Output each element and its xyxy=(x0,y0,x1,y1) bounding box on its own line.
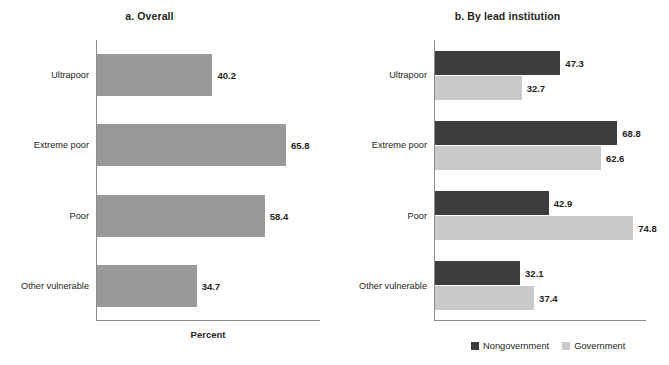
category-group: Extreme poor65.8 xyxy=(97,124,321,166)
bar-value-label: 58.4 xyxy=(270,210,289,221)
category-axis-label: Extreme poor xyxy=(372,140,427,150)
bar-value-label: 62.6 xyxy=(606,152,625,163)
bar[interactable]: 32.7 xyxy=(435,76,522,100)
panel-a-x-axis-line xyxy=(96,320,320,321)
bar-row: 58.4 xyxy=(97,195,321,237)
bar-value-label: 32.1 xyxy=(525,268,544,279)
bar-row: 32.1 xyxy=(435,261,647,285)
category-group: Poor58.4 xyxy=(97,195,321,237)
bar-row: 37.4 xyxy=(435,286,647,310)
bar-value-label: 32.7 xyxy=(527,82,546,93)
category-axis-label: Ultrapoor xyxy=(389,70,427,80)
bar[interactable]: 32.1 xyxy=(435,261,520,285)
category-axis-label: Other vulnerable xyxy=(359,281,427,291)
bar-row: 74.8 xyxy=(435,216,647,240)
bar[interactable]: 40.2 xyxy=(97,54,212,96)
panel-a-x-axis-title: Percent xyxy=(148,329,268,340)
bar-value-label: 34.7 xyxy=(202,280,221,291)
bar[interactable]: 62.6 xyxy=(435,146,601,170)
legend-item-nongovernment[interactable]: Nongovernment xyxy=(471,341,549,351)
bar-row: 47.3 xyxy=(435,51,647,75)
legend: NongovernmentGovernment xyxy=(471,341,625,351)
bar[interactable]: 74.8 xyxy=(435,216,633,240)
bar-row: 34.7 xyxy=(97,265,321,307)
legend-swatch-icon xyxy=(471,342,479,350)
category-group: Other vulnerable32.137.4 xyxy=(435,261,647,310)
panel-b-x-axis-line xyxy=(434,320,646,321)
panel-by-lead-institution: b. By lead institution Ultrapoor47.332.7… xyxy=(334,0,669,365)
bar[interactable]: 37.4 xyxy=(435,286,534,310)
legend-swatch-icon xyxy=(562,342,570,350)
bar[interactable]: 65.8 xyxy=(97,124,286,166)
category-axis-label: Poor xyxy=(408,211,427,221)
bar-value-label: 42.9 xyxy=(554,198,573,209)
panel-overall: a. Overall Ultrapoor40.2Extreme poor65.8… xyxy=(0,0,335,365)
panel-a-plot-area: Ultrapoor40.2Extreme poor65.8Poor58.4Oth… xyxy=(96,40,320,321)
bar-row: 42.9 xyxy=(435,191,647,215)
bar-value-label: 68.8 xyxy=(622,127,641,138)
two-panel-bar-chart-figure: a. Overall Ultrapoor40.2Extreme poor65.8… xyxy=(0,0,669,365)
panel-b-plot-area: Ultrapoor47.332.7Extreme poor68.862.6Poo… xyxy=(434,40,646,321)
bar-value-label: 74.8 xyxy=(638,223,657,234)
category-group: Poor42.974.8 xyxy=(435,191,647,240)
bar[interactable]: 68.8 xyxy=(435,121,617,145)
category-group: Ultrapoor47.332.7 xyxy=(435,51,647,100)
bar-row: 68.8 xyxy=(435,121,647,145)
bar-row: 40.2 xyxy=(97,54,321,96)
bar-row: 32.7 xyxy=(435,76,647,100)
bar[interactable]: 34.7 xyxy=(97,265,197,307)
bar-value-label: 37.4 xyxy=(539,293,558,304)
bar-row: 65.8 xyxy=(97,124,321,166)
category-group: Other vulnerable34.7 xyxy=(97,265,321,307)
bar[interactable]: 58.4 xyxy=(97,195,265,237)
category-axis-label: Other vulnerable xyxy=(21,281,89,291)
bar[interactable]: 47.3 xyxy=(435,51,560,75)
bar-row: 62.6 xyxy=(435,146,647,170)
legend-label: Nongovernment xyxy=(483,341,549,351)
category-axis-label: Extreme poor xyxy=(34,140,89,150)
bar[interactable]: 42.9 xyxy=(435,191,549,215)
legend-item-government[interactable]: Government xyxy=(562,341,625,351)
panel-a-title: a. Overall xyxy=(0,10,317,22)
category-group: Ultrapoor40.2 xyxy=(97,54,321,96)
category-axis-label: Ultrapoor xyxy=(51,70,89,80)
bar-value-label: 47.3 xyxy=(565,57,584,68)
panel-b-title: b. By lead institution xyxy=(340,10,669,22)
legend-label: Government xyxy=(574,341,625,351)
bar-value-label: 65.8 xyxy=(291,140,310,151)
category-group: Extreme poor68.862.6 xyxy=(435,121,647,170)
bar-value-label: 40.2 xyxy=(217,70,236,81)
category-axis-label: Poor xyxy=(70,211,89,221)
